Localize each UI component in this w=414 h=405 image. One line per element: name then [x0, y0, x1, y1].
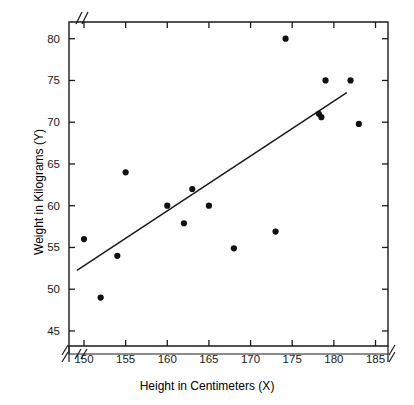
scatter-plot-figure: 150155160165170175180185 455055606570758… [0, 0, 414, 405]
data-point [347, 77, 353, 83]
x-axis-title: Height in Centimeters (X) [0, 376, 414, 394]
y-tick-label: 50 [47, 283, 60, 295]
x-tick-label: 160 [158, 353, 177, 365]
data-point [123, 169, 129, 175]
y-axis-title-variable: Y [32, 133, 46, 141]
data-point [206, 203, 212, 209]
y-axis-title-text: Weight in Kilograms [32, 148, 46, 255]
plot-canvas: 150155160165170175180185 455055606570758… [0, 0, 414, 405]
y-tick-label: 45 [47, 325, 60, 337]
y-tick-label: 75 [47, 74, 60, 86]
x-axis-title-paren-close: ) [270, 379, 274, 393]
data-point [98, 294, 104, 300]
data-point [114, 253, 120, 259]
regression-line [77, 93, 346, 270]
x-tick-label: 170 [241, 353, 260, 365]
x-tick-label: 150 [74, 353, 93, 365]
data-point [318, 114, 324, 120]
y-tick-label: 55 [47, 241, 60, 253]
y-tick-label: 60 [47, 200, 60, 212]
x-tick-label: 165 [199, 353, 218, 365]
data-point [181, 220, 187, 226]
regression-line-group [77, 93, 346, 270]
y-tick-label: 80 [47, 33, 60, 45]
data-point [81, 236, 87, 242]
x-axis-ticks [84, 22, 376, 346]
y-tick-label: 65 [47, 158, 60, 170]
y-axis-title-paren-open: ( [32, 141, 46, 148]
data-point [272, 228, 278, 234]
data-point [189, 186, 195, 192]
y-axis-ticks [69, 39, 388, 331]
x-tick-label: 185 [366, 353, 385, 365]
y-axis-title-paren-close: ) [32, 129, 46, 133]
data-point [322, 77, 328, 83]
data-point [231, 245, 237, 251]
y-tick-labels: 4550556065707580 [47, 33, 60, 337]
data-point [282, 36, 288, 42]
x-axis-title-text: Height in Centimeters [140, 379, 255, 393]
data-point [164, 203, 170, 209]
axes-rectangle [69, 22, 388, 346]
y-tick-label: 70 [47, 116, 60, 128]
data-points-group [81, 36, 362, 301]
x-tick-label: 175 [283, 353, 302, 365]
plot-frame [69, 22, 388, 346]
axis-break-marks [62, 12, 395, 362]
x-tick-label: 155 [116, 353, 135, 365]
x-tick-labels: 150155160165170175180185 [74, 353, 385, 365]
data-point [356, 121, 362, 127]
y-axis-title: Weight in Kilograms (Y) [29, 72, 47, 312]
x-tick-label: 180 [324, 353, 343, 365]
